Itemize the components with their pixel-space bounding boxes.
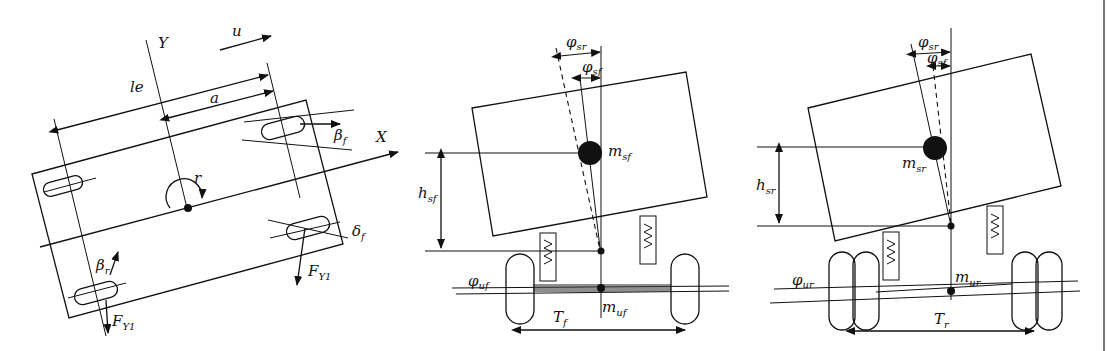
sprung-mass-rear (923, 136, 947, 160)
top-view-panel: Y X u le a r βf δf βr FY1 FY1 (32, 22, 398, 336)
right-tire-inner-rear (1012, 252, 1038, 330)
label-phi-ur: φur (792, 271, 815, 290)
left-tire-inner-rear (853, 252, 879, 330)
label-m-sr: msr (902, 154, 927, 174)
label-h-sf: hsf (418, 184, 439, 204)
label-phi-sr: φsr (566, 33, 588, 52)
right-tire-front (671, 254, 699, 324)
cg-point (184, 204, 192, 212)
label-m-ur: mur (955, 268, 982, 288)
le-dimension (57, 75, 268, 130)
label-F-rear: FY1 (111, 312, 135, 332)
left-tire-front (506, 254, 534, 324)
front-right-wheel (285, 215, 332, 242)
y-axis (146, 40, 187, 208)
front-axle-panel: φsr φsf msf hsf φuf muf Tf (418, 33, 729, 330)
front-axle-line (267, 63, 300, 198)
vehicle-dynamics-figure: Y X u le a r βf δf βr FY1 FY1 (0, 0, 1107, 351)
label-T-r: Tr (934, 310, 950, 330)
label-phi-sf: φsf (582, 58, 604, 77)
label-a: a (210, 89, 219, 107)
left-spring-damper (540, 233, 556, 281)
a-dimension (168, 91, 273, 118)
label-le: le (130, 78, 144, 96)
label-u: u (232, 22, 242, 40)
label-r: r (194, 169, 202, 187)
label-m-sf: msf (608, 142, 633, 162)
left-spring-damper (883, 232, 899, 280)
rear-slip-arrow (110, 252, 118, 275)
rear-left-wheel (42, 174, 84, 198)
label-h-sr: hsr (756, 176, 777, 196)
unsprung-mass-front (597, 284, 605, 292)
right-border-line (1103, 0, 1105, 351)
x-axis (40, 152, 398, 247)
right-tire-outer-rear (1036, 252, 1062, 330)
rear-axle-panel: φsr φsf msr hsr φur mur Tr (756, 28, 1080, 331)
right-spring-damper (987, 206, 1003, 254)
label-phi-uf: φuf (468, 272, 491, 291)
label-delta-f: δf (352, 222, 367, 242)
velocity-u-arrow (220, 36, 271, 50)
right-spring-damper (640, 216, 656, 264)
rear-axle-line (54, 119, 106, 336)
label-F-front: FY1 (307, 262, 331, 282)
label-beta-r: βr (95, 256, 111, 276)
left-tire-outer-rear (829, 252, 855, 330)
sprung-mass-front (578, 141, 602, 165)
label-beta-f: βf (333, 126, 349, 146)
label-X: X (375, 128, 388, 146)
label-m-uf: muf (602, 298, 629, 318)
label-T-f: Tf (553, 308, 569, 328)
unsprung-mass-rear (947, 287, 955, 295)
label-Y: Y (158, 34, 170, 52)
rear-force-arrow (106, 300, 108, 333)
rear-roll-line (911, 44, 951, 226)
